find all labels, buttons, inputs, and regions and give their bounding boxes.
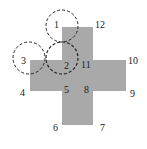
vertex-label-9: 9	[130, 88, 135, 99]
vertex-label-12: 12	[95, 19, 105, 30]
vertex-label-6: 6	[53, 122, 58, 133]
circle-label-3: 3	[21, 55, 26, 66]
vertex-label-8: 8	[84, 84, 89, 95]
cross-shape	[30, 27, 126, 125]
circle-label-2: 2	[64, 60, 69, 71]
circle-label-1: 1	[54, 19, 59, 30]
vertex-label-4: 4	[20, 87, 25, 98]
vertex-label-5: 5	[64, 84, 69, 95]
vertex-label-11: 11	[81, 59, 91, 70]
circle-3	[13, 42, 45, 74]
vertex-label-10: 10	[128, 55, 138, 66]
cross-diagram: 1 2 3 12 11 10 9 8 7 6 5 4	[0, 0, 147, 149]
vertex-label-7: 7	[100, 122, 105, 133]
